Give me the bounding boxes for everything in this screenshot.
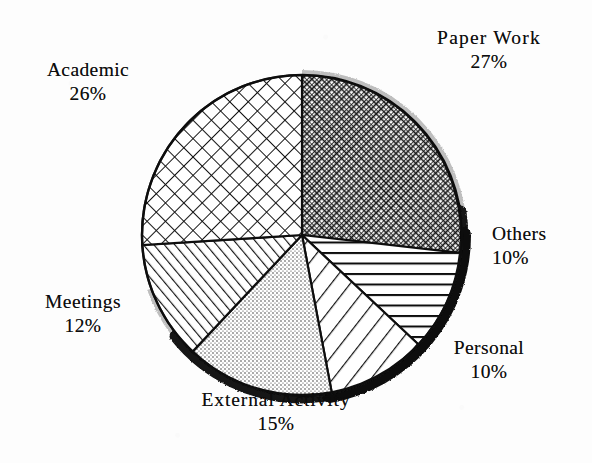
pie-label-others: Others 10% bbox=[492, 222, 588, 270]
pie-label-personal-percent: 10% bbox=[414, 360, 564, 384]
pie-label-meetings-percent: 12% bbox=[8, 314, 158, 338]
pie-label-external-activity-name: External Activity bbox=[168, 388, 384, 412]
pie-slice-paper-work[interactable] bbox=[302, 75, 461, 253]
pie-label-external-activity-percent: 15% bbox=[168, 412, 384, 436]
pie-label-others-percent: 10% bbox=[492, 246, 588, 270]
pie-label-personal: Personal 10% bbox=[414, 336, 564, 384]
pie-label-academic-name: Academic bbox=[8, 58, 168, 82]
pie-label-academic-percent: 26% bbox=[8, 82, 168, 106]
pie-label-paper-work-name: Paper Work bbox=[404, 26, 574, 50]
pie-label-paper-work-percent: 27% bbox=[404, 50, 574, 74]
pie-label-others-name: Others bbox=[492, 222, 588, 246]
pie-label-personal-name: Personal bbox=[414, 336, 564, 360]
pie-label-external-activity: External Activity 15% bbox=[168, 388, 384, 436]
pie-chart-figure: Paper Work 27% Academic 26% Others 10% M… bbox=[0, 0, 592, 463]
pie-label-meetings-name: Meetings bbox=[8, 290, 158, 314]
pie-label-paper-work: Paper Work 27% bbox=[404, 26, 574, 74]
pie-label-meetings: Meetings 12% bbox=[8, 290, 158, 338]
pie-label-academic: Academic 26% bbox=[8, 58, 168, 106]
